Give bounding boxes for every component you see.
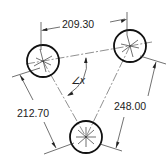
dimension-right: 248.00 [100, 56, 166, 151]
angle-x-label: ∠x [71, 75, 86, 86]
hole-b [114, 30, 146, 62]
hole-pattern-drawing: 209.30 212.70 248.00 ∠x [0, 0, 168, 166]
dimension-left: 212.70 [12, 68, 74, 154]
hole-c [70, 121, 102, 153]
dimension-top-value: 209.30 [62, 18, 94, 30]
centerline-a-c [43, 61, 86, 137]
dimension-left-value: 212.70 [17, 107, 49, 119]
angle-x: ∠x [67, 57, 88, 96]
dimension-right-value: 248.00 [114, 100, 146, 112]
hole-a [27, 45, 59, 77]
